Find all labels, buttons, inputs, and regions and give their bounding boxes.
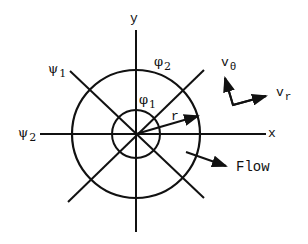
y-axis-label: y <box>130 12 138 25</box>
v-r-arrow <box>233 96 266 105</box>
v-r-label: vr <box>276 86 291 99</box>
flow-diagram-canvas <box>0 0 308 244</box>
phi-1-label: φ1 <box>139 93 156 106</box>
v-theta-label: vθ <box>221 56 236 69</box>
flow-label: Flow <box>236 160 270 174</box>
psi-2-label: ψ2 <box>18 126 36 139</box>
v-theta-arrow <box>225 78 233 105</box>
x-axis-label: x <box>268 127 276 140</box>
phi-2-label: φ2 <box>154 55 171 68</box>
psi-1-label: ψ1 <box>48 62 66 75</box>
radius-label: r <box>171 110 179 123</box>
radius-arrow <box>136 116 198 134</box>
